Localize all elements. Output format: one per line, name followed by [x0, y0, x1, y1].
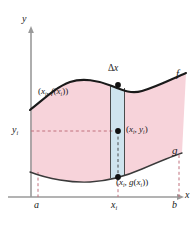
delta-x-label: Δx — [108, 64, 118, 74]
figure-canvas — [0, 0, 194, 232]
curve-g-label: g — [172, 145, 178, 156]
tick-label-b: b — [172, 200, 177, 210]
point-upper — [115, 82, 121, 88]
tick-xi-sub: i — [115, 204, 117, 211]
mid-close: ) — [145, 124, 148, 134]
tick-label-yi: yi — [12, 125, 18, 136]
x-axis-arrow-icon — [177, 194, 184, 200]
up-close: ) — [65, 86, 68, 96]
tick-label-a: a — [34, 200, 39, 210]
label-upper-point: (xi, f(xi)) — [38, 87, 68, 97]
y-axis-label: y — [22, 14, 26, 24]
y-axis-arrow-icon — [28, 26, 34, 33]
x-axis-label: x — [185, 190, 189, 200]
label-lower-point: (xi, g(xi)) — [116, 178, 148, 188]
point-mid — [115, 128, 121, 134]
low-close: ) — [145, 177, 148, 187]
label-mid-point: (xi, yi) — [126, 125, 148, 135]
tick-label-xi: xi — [111, 200, 117, 211]
curve-f-label: f — [176, 68, 179, 79]
tick-yi-sub: i — [16, 129, 18, 136]
delta-var: x — [114, 63, 118, 73]
area-between-curves-figure: y x f g a b xi yi Δx (xi, f(xi)) (xi, yi… — [0, 0, 194, 232]
